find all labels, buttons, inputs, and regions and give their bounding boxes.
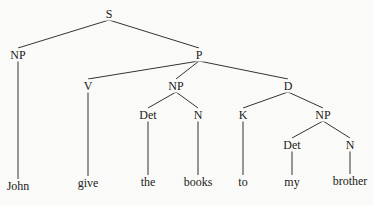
leaf-the: the bbox=[140, 176, 157, 189]
tree-edge bbox=[199, 61, 288, 79]
leaf-john: John bbox=[6, 180, 31, 193]
tree-edge bbox=[243, 92, 288, 108]
tree-edge bbox=[292, 121, 323, 138]
tree-edge bbox=[323, 121, 350, 138]
node-N-brother: N bbox=[345, 139, 356, 152]
node-S: S bbox=[105, 8, 114, 21]
syntax-tree-diagram: S NP P V NP D Det N K NP Det N John give… bbox=[0, 0, 373, 205]
node-D: D bbox=[283, 80, 294, 93]
leaf-give: give bbox=[77, 177, 100, 190]
node-K: K bbox=[238, 109, 249, 122]
tree-edge bbox=[109, 20, 199, 48]
leaf-to: to bbox=[237, 176, 248, 189]
tree-edge bbox=[18, 20, 109, 48]
tree-edge bbox=[176, 92, 198, 108]
node-V: V bbox=[83, 80, 94, 93]
node-NP-subject: NP bbox=[9, 49, 26, 62]
node-N-books: N bbox=[193, 109, 204, 122]
tree-edge bbox=[88, 61, 199, 79]
node-NP-dative: NP bbox=[314, 109, 331, 122]
tree-edge bbox=[288, 92, 323, 108]
node-P: P bbox=[195, 49, 204, 62]
leaf-my: my bbox=[283, 176, 300, 189]
leaf-books: books bbox=[183, 176, 214, 189]
node-NP-object: NP bbox=[167, 80, 184, 93]
node-Det-my: Det bbox=[282, 139, 301, 152]
node-Det-the: Det bbox=[138, 109, 157, 122]
tree-edge bbox=[148, 92, 176, 108]
leaf-brother: brother bbox=[332, 175, 369, 188]
